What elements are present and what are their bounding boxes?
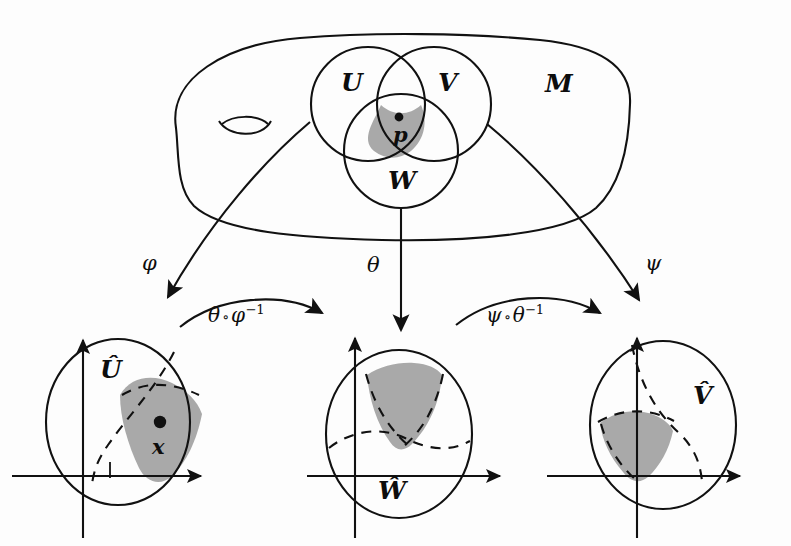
manifold-point-dot — [395, 113, 404, 122]
chart-point-label-x: x — [152, 436, 165, 457]
chart-map-label-phi: φ — [142, 253, 157, 274]
chart-V-hat — [547, 338, 740, 538]
chart-label-V-hat: V̂ — [693, 383, 712, 408]
chart-map-label-psi: ψ — [645, 253, 661, 274]
diagram-svg — [0, 0, 791, 546]
patch-label-W: W — [388, 168, 416, 193]
compose-symbol-2: ∘ — [502, 309, 513, 325]
transition-exponent-2: −1 — [525, 302, 544, 317]
transition-label-theta-phi-inv: θ∘φ−1 — [208, 303, 265, 325]
chart-label-W-hat: Ŵ — [378, 478, 406, 503]
chart-arrow-psi — [487, 124, 639, 300]
figure-canvas: U V W M p φ θ ψ θ∘φ−1 ψ∘θ−1 Û Ŵ V̂ x — [0, 0, 791, 546]
chart-arrow-phi — [168, 122, 310, 297]
transition-second-2: θ — [513, 303, 525, 327]
manifold-label: M — [545, 71, 573, 96]
patch-label-U: U — [341, 70, 363, 95]
manifold-point-label: p — [393, 124, 408, 145]
transition-second-1: φ — [231, 303, 245, 327]
transition-base-1: θ — [208, 303, 220, 327]
transition-exponent-1: −1 — [245, 302, 264, 317]
compose-symbol-1: ∘ — [220, 309, 231, 325]
genus-handle-lower — [219, 121, 271, 134]
chart-map-label-theta: θ — [367, 255, 380, 276]
patch-label-V: V — [438, 70, 457, 95]
transition-base-2: ψ — [486, 303, 502, 327]
transition-label-psi-theta-inv: ψ∘θ−1 — [486, 303, 544, 325]
chart-U-marked-point-dot — [154, 416, 166, 428]
chart-W-shaded-region — [367, 363, 442, 450]
genus-handle-upper — [222, 117, 268, 124]
chart-label-U-hat: Û — [100, 357, 122, 382]
chart-W-hat — [307, 338, 500, 538]
